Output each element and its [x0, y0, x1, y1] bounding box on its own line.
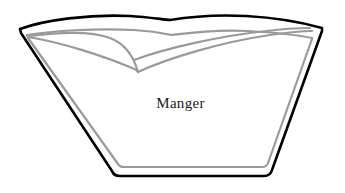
manger-outer-outline — [20, 15, 322, 176]
manger-drawing — [0, 0, 345, 193]
manger-figure: Manger — [0, 0, 345, 193]
